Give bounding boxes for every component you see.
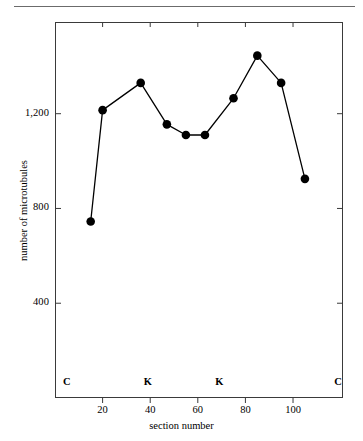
data-point <box>182 131 191 140</box>
data-point <box>229 94 238 103</box>
zone-label-c: C <box>63 376 71 387</box>
data-point <box>253 51 262 60</box>
data-line <box>91 56 305 222</box>
zone-label-k: K <box>144 376 152 387</box>
x-axis-title: section number <box>0 420 363 431</box>
y-tick-label: 1,200 <box>7 107 49 118</box>
axis-ticks <box>55 22 343 403</box>
data-point <box>163 120 172 129</box>
data-point <box>98 106 107 115</box>
zone-label-c: C <box>334 376 342 387</box>
x-tick-label: 60 <box>178 404 218 415</box>
chart-svg <box>0 0 363 441</box>
data-point <box>136 79 145 88</box>
y-tick-label: 400 <box>7 296 49 307</box>
x-tick-label: 100 <box>273 404 313 415</box>
data-point <box>201 131 210 140</box>
x-tick-label: 40 <box>130 404 170 415</box>
data-point <box>301 175 310 184</box>
zone-label-k: K <box>215 376 223 387</box>
x-tick-label: 20 <box>83 404 123 415</box>
data-point <box>277 79 286 88</box>
data-point <box>86 217 95 226</box>
y-axis-title: number of microtubules <box>18 126 29 296</box>
figure: 4008001,200 20406080100 CKKC section num… <box>0 0 363 441</box>
x-tick-label: 80 <box>225 404 265 415</box>
